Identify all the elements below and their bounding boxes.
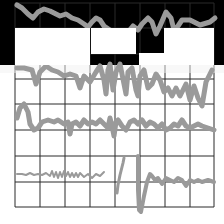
trace-6 bbox=[138, 156, 214, 212]
waveform-grid-canvas bbox=[0, 0, 224, 224]
trace-4 bbox=[17, 171, 104, 178]
white-block bbox=[139, 53, 164, 65]
white-block bbox=[164, 28, 214, 65]
trace-5 bbox=[117, 158, 124, 193]
white-block bbox=[91, 28, 136, 54]
white-block bbox=[15, 28, 90, 65]
waveform-grid bbox=[0, 0, 224, 224]
